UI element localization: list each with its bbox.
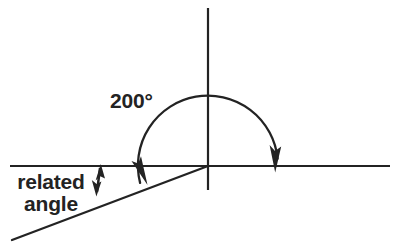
angle-diagram: 200° relatedangle bbox=[0, 0, 397, 252]
related-angle-label-line1: related bbox=[17, 170, 84, 193]
related-angle-label-line2: angle bbox=[6, 193, 96, 215]
related-angle-label: relatedangle bbox=[6, 171, 96, 216]
angle-measure-label: 200° bbox=[110, 90, 153, 112]
